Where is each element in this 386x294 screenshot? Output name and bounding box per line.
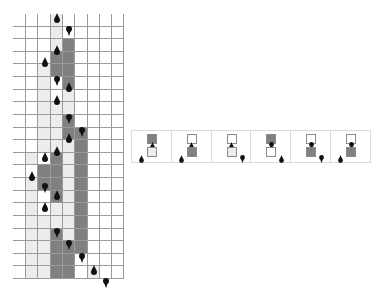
grid-cell <box>26 102 38 115</box>
grid-cell <box>88 216 100 229</box>
grid-cell <box>26 229 38 241</box>
grid-cell <box>38 216 51 229</box>
grid-cell <box>75 52 88 64</box>
pin-icon <box>319 148 324 156</box>
grid-cell <box>112 216 124 229</box>
pin-icon <box>269 135 274 143</box>
grid-cell <box>13 203 26 216</box>
grid-cell <box>51 241 63 254</box>
grid-cell <box>100 102 112 115</box>
grid-cell <box>75 77 88 90</box>
legend-top-square <box>227 134 237 144</box>
grid-cell <box>13 254 26 266</box>
grid-cell <box>13 178 26 191</box>
grid-cell <box>100 90 112 102</box>
grid-cell <box>100 153 112 165</box>
drop-icon <box>150 135 155 143</box>
legend-bottom-square <box>227 147 237 157</box>
grid-cell <box>100 39 112 52</box>
grid-cell <box>13 191 26 203</box>
legend-item-2 <box>172 131 212 162</box>
grid-cell <box>13 216 26 229</box>
grid-cell <box>51 27 63 39</box>
legend-bottom-square <box>147 147 157 157</box>
pin-icon <box>103 273 109 283</box>
drop-icon <box>54 185 60 195</box>
grid-cell <box>100 115 112 128</box>
grid-cell <box>38 266 51 279</box>
drop-icon <box>42 197 48 207</box>
grid-cell <box>63 165 75 178</box>
pin-icon <box>66 109 72 119</box>
grid-cell <box>88 102 100 115</box>
grid-cell <box>13 90 26 102</box>
grid-cell <box>13 241 26 254</box>
grid-cell <box>100 165 112 178</box>
grid-cell <box>100 140 112 153</box>
grid-cell <box>26 153 38 165</box>
grid-cell <box>88 77 100 90</box>
pin-icon <box>54 71 60 81</box>
drop-icon <box>279 148 284 156</box>
grid-cell <box>112 229 124 241</box>
grid-cell <box>38 14 51 27</box>
grid-cell <box>63 203 75 216</box>
grid-cell <box>88 165 100 178</box>
grid-cell <box>88 203 100 216</box>
grid-cell <box>38 229 51 241</box>
grid-cell <box>88 128 100 140</box>
grid-cell <box>112 153 124 165</box>
pin-icon <box>42 178 48 188</box>
grid-cell <box>26 14 38 27</box>
grid-cell <box>13 39 26 52</box>
grid-cell <box>38 90 51 102</box>
legend-item-3 <box>212 131 252 162</box>
grid-cell <box>112 102 124 115</box>
drop-icon <box>66 128 72 138</box>
drop-icon <box>29 166 35 176</box>
grid-cell <box>26 77 38 90</box>
grid-cell <box>75 191 88 203</box>
grid-cell <box>112 128 124 140</box>
grid-cell <box>112 254 124 266</box>
grid-cell <box>26 39 38 52</box>
legend-bottom-square <box>306 147 316 157</box>
legend-item-1 <box>132 131 172 162</box>
grid-cell <box>112 165 124 178</box>
grid-cell <box>88 229 100 241</box>
grid-cell <box>51 254 63 266</box>
grid-cell <box>88 191 100 203</box>
drop-icon <box>54 90 60 100</box>
grid-cell <box>13 266 26 279</box>
grid-cell <box>75 178 88 191</box>
pin-icon <box>349 135 354 143</box>
grid-cell <box>75 153 88 165</box>
drop-icon <box>54 40 60 50</box>
grid-cell <box>63 254 75 266</box>
grid-cell <box>38 27 51 39</box>
legend-top-square <box>346 134 356 144</box>
grid-cell <box>26 254 38 266</box>
pin-icon <box>79 122 85 132</box>
pin-icon <box>309 135 314 143</box>
drop-icon <box>179 148 184 156</box>
grid-cell <box>13 77 26 90</box>
legend-top-square <box>187 134 197 144</box>
grid-cell <box>26 203 38 216</box>
grid-cell <box>88 90 100 102</box>
grid-cell <box>88 140 100 153</box>
grid-cell <box>51 266 63 279</box>
grid-cell <box>38 241 51 254</box>
grid-cell <box>51 128 63 140</box>
grid-cell <box>75 90 88 102</box>
legend-bottom-square <box>187 147 197 157</box>
grid-cell <box>100 178 112 191</box>
legend-top-square <box>306 134 316 144</box>
grid-cell <box>63 64 75 77</box>
grid-cell <box>26 52 38 64</box>
grid-cell <box>88 241 100 254</box>
grid-cell <box>88 14 100 27</box>
grid-cell <box>100 64 112 77</box>
grid-cell <box>75 203 88 216</box>
grid-cell <box>112 77 124 90</box>
